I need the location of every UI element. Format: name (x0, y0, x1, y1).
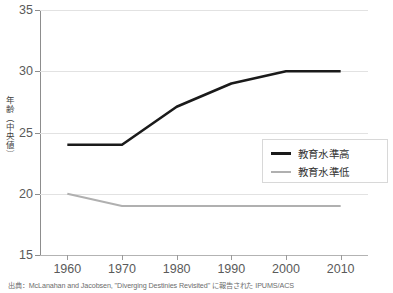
x-axis-tick-label: 2010 (311, 262, 371, 276)
series-line (67, 194, 340, 206)
legend-item-high-education: 教育水準高 (271, 145, 349, 162)
legend-swatch-high-education (271, 152, 291, 155)
y-axis-tick (35, 133, 40, 134)
legend-item-low-education: 教育水準低 (271, 163, 349, 180)
line-chart: 年齢（中央値） 3530252015 教育水準高 教育水準低 出典：McLana… (0, 0, 393, 293)
x-axis-tick-label: 2000 (256, 262, 316, 276)
y-axis-tick (35, 71, 40, 72)
y-axis-tick (35, 255, 40, 256)
legend-label-high-education: 教育水準高 (298, 146, 349, 161)
x-axis-tick-label: 1960 (37, 262, 97, 276)
x-axis-tick-label: 1990 (201, 262, 261, 276)
x-axis-tick (122, 255, 123, 260)
x-axis-tick-label: 1980 (147, 262, 207, 276)
y-axis-tick (35, 194, 40, 195)
x-axis-tick (286, 255, 287, 260)
x-axis-tick (177, 255, 178, 260)
x-axis-tick (341, 255, 342, 260)
source-note: 出典：McLanahan and Jacobsen, "Diverging De… (8, 281, 393, 291)
x-axis-tick-label: 1970 (92, 262, 152, 276)
legend-label-low-education: 教育水準低 (298, 164, 349, 179)
x-axis-tick (231, 255, 232, 260)
x-axis-tick (67, 255, 68, 260)
legend: 教育水準高 教育水準低 (262, 139, 388, 183)
series-line (67, 71, 340, 145)
y-axis-tick (35, 10, 40, 11)
legend-swatch-low-education (271, 171, 291, 173)
